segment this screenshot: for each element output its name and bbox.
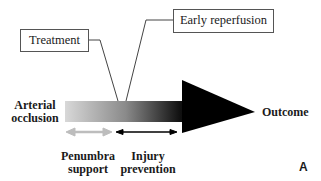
early-reperfusion-box: Early reperfusion	[173, 9, 274, 33]
early-reperfusion-connector	[126, 20, 173, 101]
injury-prevention-arrow	[116, 130, 177, 135]
early-reperfusion-label: Early reperfusion	[180, 13, 267, 27]
penumbra-support-arrow	[66, 128, 112, 136]
main-arrow-shaft	[65, 101, 185, 122]
penumbra-support-label: Penumbra support	[58, 150, 118, 176]
injury-prevention-label: Injury prevention	[118, 150, 178, 176]
panel-label: A	[299, 160, 308, 174]
main-arrow	[65, 80, 255, 133]
outcome-label: Outcome	[262, 106, 309, 119]
treatment-label: Treatment	[29, 33, 80, 47]
main-arrow-head	[182, 80, 255, 133]
connector-lines	[88, 20, 173, 101]
treatment-box: Treatment	[20, 29, 89, 52]
treatment-connector	[88, 40, 118, 101]
arterial-occlusion-label: Arterial occlusion	[10, 99, 60, 125]
